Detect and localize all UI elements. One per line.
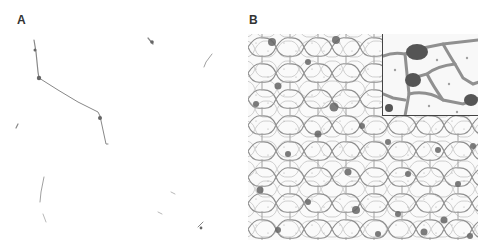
panel-label-b: B xyxy=(249,13,258,27)
magnified-inset xyxy=(382,34,478,116)
micrograph-panel-b xyxy=(248,34,478,240)
micrograph-panel-a xyxy=(8,32,238,242)
sparse-processes-image xyxy=(8,32,238,242)
panel-label-a: A xyxy=(17,13,26,27)
inset-magnified-image xyxy=(383,34,478,116)
